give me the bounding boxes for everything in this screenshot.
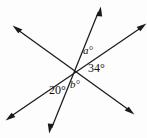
angle-label-34: 34° (88, 62, 105, 74)
line-upper-right-to-lower-left (6, 24, 147, 121)
angle-label-b: b° (70, 79, 80, 90)
line-segment (11, 28, 141, 117)
angle-diagram-figure: a° 34° b° 20° (0, 0, 147, 138)
line-segment (18, 30, 129, 110)
line-upper-left-to-lower-right (13, 26, 135, 115)
diagram-canvas (0, 0, 147, 138)
angle-label-a: a° (83, 45, 93, 56)
angle-label-20: 20° (49, 84, 66, 96)
arrowhead-top-icon (96, 6, 102, 16)
arrowhead-bottom-icon (48, 123, 54, 133)
